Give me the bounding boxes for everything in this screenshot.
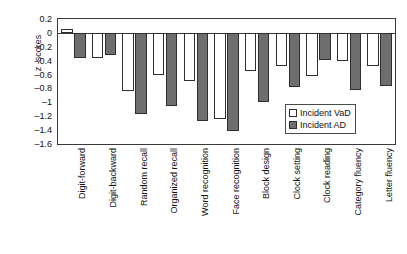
bar-incident-vad [122, 33, 134, 91]
y-tick-label: 0 [47, 28, 52, 37]
bar-group [58, 19, 89, 144]
y-tick-label: –0.6 [34, 70, 52, 79]
y-tick-label: 0.2 [39, 15, 52, 24]
x-category-label-text: Clock reading [322, 148, 332, 203]
x-axis-category-labels: Digit-forwardDigit-backwardRandom recall… [58, 148, 395, 248]
legend: Incident VaDIncident AD [285, 104, 356, 134]
x-category-label-text: Word recognition [200, 148, 210, 216]
x-category-label: Organized recall [169, 148, 179, 214]
bar-incident-vad [276, 33, 288, 66]
x-category-label: Letter fluency [384, 148, 394, 202]
bar-incident-vad [306, 33, 318, 76]
bar-incident-ad [289, 33, 301, 87]
bar-incident-vad [214, 33, 226, 119]
bar-incident-vad [153, 33, 165, 75]
bar-incident-ad [197, 33, 209, 121]
legend-swatch-vad [289, 109, 297, 117]
bar-incident-vad [367, 33, 379, 66]
legend-swatch-ad [289, 121, 297, 129]
bar-group [119, 19, 150, 144]
y-tick-label: –0.4 [34, 56, 52, 65]
x-category-label-text: Face recognition [231, 148, 241, 215]
bar-incident-ad [166, 33, 178, 106]
bar-incident-vad [245, 33, 257, 71]
bar-group [242, 19, 273, 144]
x-category-label: Digit-backward [108, 148, 118, 208]
bar-incident-vad [92, 33, 104, 58]
legend-item: Incident AD [289, 119, 351, 131]
x-category-label-text: Digit-forward [77, 148, 87, 199]
x-category-label-text: Random recall [139, 148, 149, 206]
x-category-label-text: Organized recall [169, 148, 179, 214]
bar-incident-vad [184, 33, 196, 81]
bar-group [211, 19, 242, 144]
x-category-label-text: Clock setting [292, 148, 302, 200]
legend-item: Incident VaD [289, 107, 351, 119]
x-category-label-text: Block design [261, 148, 271, 199]
x-category-label: Random recall [139, 148, 149, 206]
bar-incident-ad [105, 33, 117, 55]
bar-chart: z -scores 0.20–0.2–0.4–0.6–0.8–1–1.2–1.4… [0, 0, 407, 254]
x-category-label: Category fluency [353, 148, 363, 216]
bar-incident-ad [227, 33, 239, 131]
bar-incident-ad [258, 33, 270, 102]
bar-incident-ad [350, 33, 362, 90]
bar-group [89, 19, 120, 144]
x-category-label-text: Digit-backward [108, 148, 118, 208]
bar-incident-vad [61, 29, 73, 32]
bar-group [150, 19, 181, 144]
x-category-label-text: Category fluency [353, 148, 363, 216]
x-category-label-text: Letter fluency [384, 148, 394, 202]
y-tick-label: –1.2 [34, 112, 52, 121]
legend-label: Incident VaD [300, 109, 351, 118]
bar-incident-ad [74, 33, 86, 58]
x-category-label: Face recognition [231, 148, 241, 215]
y-tick-label: –0.2 [34, 42, 52, 51]
bar-incident-ad [319, 33, 331, 60]
y-tick-label: –0.8 [34, 84, 52, 93]
legend-label: Incident AD [300, 121, 346, 130]
x-category-label: Block design [261, 148, 271, 199]
x-category-label: Clock setting [292, 148, 302, 200]
bar-group [181, 19, 212, 144]
x-category-label: Clock reading [322, 148, 332, 203]
x-category-label: Digit-forward [77, 148, 87, 199]
y-tick-label: –1.4 [34, 126, 52, 135]
bar-incident-ad [135, 33, 147, 114]
bar-incident-ad [380, 33, 392, 86]
y-axis-ticks: 0.20–0.2–0.4–0.6–0.8–1–1.2–1.4–1.6 [26, 18, 52, 145]
bar-group [364, 19, 395, 144]
x-category-label: Word recognition [200, 148, 210, 216]
y-tick-label: –1 [42, 98, 52, 107]
bar-incident-vad [337, 33, 349, 61]
y-tick-label: –1.6 [34, 140, 52, 149]
